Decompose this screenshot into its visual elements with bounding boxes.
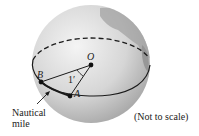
point-o bbox=[89, 63, 94, 68]
label-b: B bbox=[37, 70, 43, 80]
point-b bbox=[39, 80, 44, 85]
not-to-scale-note: (Not to scale) bbox=[134, 112, 188, 122]
label-a: A bbox=[74, 89, 80, 99]
angle-label: 1′ bbox=[68, 75, 75, 85]
point-a bbox=[68, 94, 73, 99]
label-o: O bbox=[87, 52, 94, 62]
nautical-mile-label-line2: mile bbox=[12, 119, 30, 129]
nautical-mile-label-line1: Nautical bbox=[12, 108, 46, 118]
